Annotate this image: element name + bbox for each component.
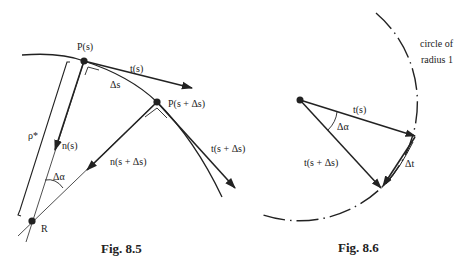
point-r [28, 217, 35, 224]
label-n-s: n(s) [62, 140, 78, 152]
label-p-s: P(s) [77, 41, 93, 53]
curve [22, 54, 222, 197]
label-circle-line1: circle of [420, 38, 454, 49]
label-delta-alpha: Δα [53, 171, 65, 182]
label-delta-t: Δt [405, 158, 414, 169]
caption-fig-8-6: Fig. 8.6 [338, 240, 379, 255]
unit-circle-arc [260, 13, 417, 221]
angle-arc-delta-alpha [328, 112, 337, 130]
figure-8-5: P(s) t(s) Δs P(s + Δs) t(s + Δs) n(s) n(… [18, 41, 245, 256]
label-t-s: t(s) [130, 63, 143, 75]
point-p-s-ds [153, 98, 160, 105]
label-t-s: t(s) [353, 104, 366, 116]
center-point [297, 97, 304, 104]
label-circle-line2: radius 1 [421, 54, 453, 65]
label-p-s-ds: P(s + Δs) [168, 98, 205, 110]
right-angle-mark-p-s [85, 67, 99, 75]
caption-fig-8-5: Fig. 8.5 [101, 241, 142, 256]
label-r: R [41, 223, 48, 234]
label-t-s-ds: t(s + Δs) [211, 143, 245, 155]
label-t-s-ds: t(s + Δs) [304, 157, 338, 169]
label-delta-alpha: Δα [337, 121, 349, 132]
label-n-s-ds: n(s + Δs) [110, 156, 147, 168]
point-p-s [80, 57, 87, 64]
label-rho-star: ρ* [28, 130, 38, 141]
label-delta-s: Δs [110, 79, 120, 90]
diagram-canvas: P(s) t(s) Δs P(s + Δs) t(s + Δs) n(s) n(… [0, 0, 474, 262]
figure-8-6: circle of radius 1 t(s) Δα t(s + Δs) Δt … [260, 13, 454, 255]
normal-n-s-arrow [55, 61, 84, 150]
